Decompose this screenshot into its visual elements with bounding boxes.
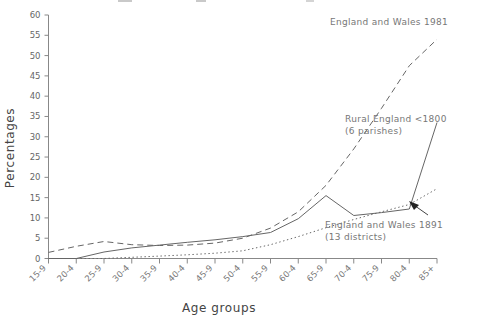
annotation-england-wales-1981: England and Wales 1981 [330, 17, 448, 27]
x-tick-label: 75-9 [360, 263, 381, 284]
y-tick-label: 0 [35, 254, 40, 264]
y-tick-labels: 051015202530354045505560 [30, 10, 41, 264]
x-tick-label: 85+ [417, 263, 437, 283]
x-tick-label: 65-9 [305, 263, 326, 284]
y-axis-title: Percentages [3, 108, 17, 188]
x-tick-label: 80-4 [388, 263, 409, 284]
y-tick-label: 40 [30, 91, 41, 101]
y-tick-label: 15 [30, 193, 41, 203]
annotation-rural-line1: Rural England <1800 [345, 114, 447, 124]
x-axis: 15-920-425-930-435-940-445-950-455-960-4… [27, 259, 437, 284]
x-axis-title: Age groups [182, 301, 256, 315]
x-tick-label: 55-9 [249, 263, 270, 284]
x-tick-label: 50-4 [221, 263, 242, 284]
x-tick-label: 40-4 [166, 263, 187, 284]
y-tick-label: 35 [30, 111, 41, 121]
x-tick-label: 70-4 [332, 263, 353, 284]
annotation-arrow-icon [409, 201, 428, 215]
y-tick-label: 30 [30, 132, 41, 142]
x-tick-label: 15-9 [27, 263, 48, 284]
y-tick-label: 5 [35, 233, 40, 243]
x-tick-labels: 15-920-425-930-435-940-445-950-455-960-4… [27, 263, 436, 284]
y-tick-label: 55 [30, 30, 41, 40]
y-tick-label: 60 [30, 10, 41, 20]
chart-svg: 051015202530354045505560 15-920-425-930-… [0, 0, 477, 320]
y-tickmarks [45, 15, 49, 259]
y-tick-label: 10 [30, 213, 41, 223]
y-tick-label: 25 [30, 152, 41, 162]
annotation-rural-line2: (6 parishes) [345, 126, 402, 136]
x-tick-label: 30-4 [110, 263, 131, 284]
x-tick-label: 25-9 [83, 263, 104, 284]
y-tick-label: 20 [30, 172, 41, 182]
clipped-title-remnant [118, 0, 314, 2]
y-tick-label: 50 [30, 51, 41, 61]
annotation-1891-line2: (13 districts) [325, 232, 386, 242]
x-tick-label: 35-9 [138, 263, 159, 284]
annotation-1891-line1: England and Wales 1891 [325, 220, 443, 230]
x-tick-label: 20-4 [55, 263, 76, 284]
x-tickmarks [49, 259, 438, 264]
y-tick-label: 45 [30, 71, 41, 81]
x-tick-label: 60-4 [277, 263, 298, 284]
y-axis: 051015202530354045505560 [30, 10, 49, 264]
x-tick-label: 45-9 [194, 263, 215, 284]
annotation-rural-england: Rural England <1800 (6 parishes) [345, 114, 447, 136]
chart-container: 051015202530354045505560 15-920-425-930-… [0, 0, 477, 320]
